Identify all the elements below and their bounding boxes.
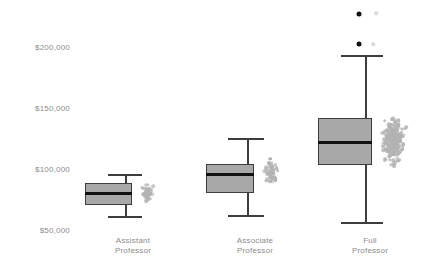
- jitter-point: [272, 177, 276, 181]
- median-full: [318, 141, 372, 144]
- jitter-point: [391, 128, 395, 132]
- jitter-point: [268, 176, 272, 180]
- median-assistant: [85, 192, 132, 195]
- jitter-point: [391, 159, 395, 163]
- jitter-point: [391, 141, 395, 145]
- jitter-point: [150, 189, 154, 193]
- jitter-point: [389, 163, 393, 167]
- outlier-point: [357, 42, 362, 47]
- jitter-point: [275, 167, 279, 171]
- whisker-cap-upper-associate: [228, 138, 264, 140]
- box-associate: [206, 164, 254, 193]
- whisker-cap-lower-associate: [228, 215, 264, 217]
- jitter-point: [397, 138, 401, 142]
- jitter-point: [397, 125, 401, 129]
- jitter-point: [144, 200, 148, 204]
- median-associate: [206, 173, 254, 176]
- jitter-point: [144, 186, 148, 190]
- jitter-point: [401, 143, 405, 147]
- jitter-point: [384, 129, 388, 133]
- jitter-point: [385, 133, 389, 137]
- whisker-cap-upper-assistant: [108, 174, 142, 176]
- jitter-point: [268, 161, 272, 165]
- jitter-point: [374, 11, 378, 15]
- jitter-point: [384, 142, 388, 146]
- ytick-label-50000: $50,000: [14, 226, 70, 235]
- jitter-point: [392, 116, 396, 120]
- jitter-point: [400, 147, 404, 151]
- whisker-cap-lower-assistant: [108, 216, 142, 218]
- outlier-point: [357, 12, 362, 17]
- ytick-label-150000: $150,000: [14, 104, 70, 113]
- boxplot-chart: $200,000 $150,000 $100,000 $50,000 Assis…: [0, 0, 426, 268]
- jitter-point: [388, 148, 392, 152]
- jitter-point: [393, 163, 397, 167]
- jitter-point: [394, 153, 398, 157]
- jitter-point: [383, 148, 387, 152]
- whisker-cap-lower-full: [341, 222, 383, 224]
- jitter-point: [398, 132, 402, 136]
- jitter-point: [146, 194, 150, 198]
- jitter-point: [383, 158, 387, 162]
- jitter-point: [401, 133, 405, 137]
- xtick-label-assistant-professor: Assistant Professor: [88, 236, 178, 256]
- jitter-point: [387, 122, 391, 126]
- jitter-point: [396, 159, 400, 163]
- xtick-label-associate-professor: Associate Professor: [210, 236, 300, 256]
- ytick-label-100000: $100,000: [14, 165, 70, 174]
- jitter-point: [389, 154, 393, 158]
- whisker-cap-upper-full: [341, 55, 383, 57]
- xtick-label-full-professor: Full Professor: [325, 236, 415, 256]
- jitter-point: [371, 42, 375, 46]
- jitter-point: [383, 119, 387, 123]
- jitter-point: [404, 125, 408, 129]
- jitter-point: [272, 172, 276, 176]
- ytick-label-200000: $200,000: [14, 43, 70, 52]
